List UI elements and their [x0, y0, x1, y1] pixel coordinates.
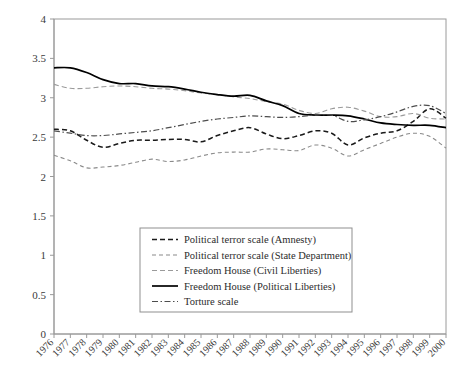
y-tick-label: 1.5	[32, 210, 46, 222]
line-chart: 00.511.522.533.54 1976197719781979198019…	[0, 0, 470, 390]
y-tick-label: 0.5	[32, 289, 46, 301]
legend-label: Freedom House (Political Liberties)	[184, 281, 336, 293]
y-axis: 00.511.522.533.54	[32, 13, 54, 340]
chart-legend: Political terror scale (Amnesty)Politica…	[140, 228, 352, 312]
legend-label: Torture scale	[184, 296, 239, 307]
y-tick-label: 2.5	[32, 131, 46, 143]
y-tick-label: 4	[41, 13, 47, 25]
chart-page: 00.511.522.533.54 1976197719781979198019…	[0, 0, 470, 390]
y-tick-label: 3	[41, 92, 47, 104]
legend-label: Political terror scale (State Department…	[184, 250, 352, 262]
y-tick-label: 1	[41, 249, 47, 261]
legend-label: Freedom House (Civil Liberties)	[184, 265, 322, 277]
x-tick-label: 2000	[425, 337, 447, 359]
legend-label: Political terror scale (Amnesty)	[184, 234, 317, 246]
y-tick-label: 2	[41, 171, 47, 183]
x-axis: 1976197719781979198019811982198319841985…	[33, 334, 447, 359]
y-tick-label: 3.5	[32, 52, 46, 64]
